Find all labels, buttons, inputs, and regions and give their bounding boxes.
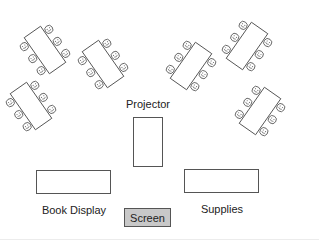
screen-label: Screen <box>130 212 165 224</box>
conference-table <box>232 82 288 140</box>
book-display-label: Book Display <box>42 205 106 216</box>
supplies-label: Supplies <box>201 204 243 215</box>
conference-table <box>163 37 219 95</box>
conference-table <box>17 21 73 79</box>
conference-table <box>3 77 59 135</box>
bottom-divider <box>0 239 319 240</box>
supplies-table <box>184 169 259 193</box>
screen: Screen <box>124 208 171 227</box>
conference-table <box>219 17 275 75</box>
book-display-table <box>36 170 111 194</box>
conference-table <box>75 35 131 93</box>
projector-stand <box>133 117 163 167</box>
projector-label: Projector <box>126 99 170 110</box>
